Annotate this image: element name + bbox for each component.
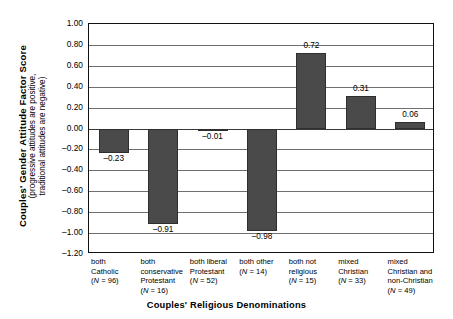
- y-axis-title-sub-line1: (progressive attitudes are positive,: [28, 45, 38, 227]
- x-category-line: non-Christian: [388, 276, 445, 286]
- x-category-line: Christian and: [388, 267, 445, 277]
- bar: [198, 129, 228, 131]
- y-tick-label: 1.00: [67, 19, 83, 27]
- x-axis-title: Couples' Religious Denominations: [0, 300, 453, 310]
- y-tick-label: 0.80: [67, 40, 83, 48]
- y-tick-label: –0.40: [62, 165, 83, 173]
- bar: [247, 129, 277, 231]
- bar-series: –0.23–0.91–0.01–0.980.720.310.06: [89, 24, 433, 252]
- y-tick-label: –0.20: [62, 144, 83, 152]
- x-category-line: mixed: [388, 257, 445, 267]
- y-tick-label: 0.00: [67, 123, 83, 131]
- bar: [395, 122, 425, 128]
- x-category-label: mixedChristian andnon-Christian(N = 49): [388, 257, 445, 296]
- bar: [346, 96, 376, 128]
- y-axis-title: Couples' Gender Attitude Factor Score (p…: [4, 18, 60, 254]
- y-tick-label: 0.60: [67, 61, 83, 69]
- bar-value-label: –0.23: [92, 155, 136, 163]
- bar-value-label: –0.91: [141, 226, 185, 234]
- bar: [148, 129, 178, 224]
- y-axis-title-sub-line2: traditional attitudes are negative): [38, 45, 48, 227]
- bar-value-label: 0.31: [339, 85, 383, 93]
- y-axis-title-main: Couples' Gender Attitude Factor Score: [17, 45, 28, 227]
- y-axis-tick-labels: 1.000.800.600.400.200.00–0.20–0.40–0.60–…: [56, 23, 86, 253]
- bar: [296, 53, 326, 128]
- bar: [99, 129, 129, 153]
- y-tick-label: –1.00: [62, 228, 83, 236]
- x-category-sample-size: (N = 52): [190, 276, 247, 286]
- x-category-sample-size: (N = 49): [388, 286, 445, 296]
- bar-value-label: 0.72: [289, 42, 333, 50]
- plot-area: –0.23–0.91–0.01–0.980.720.310.06: [88, 23, 434, 253]
- y-tick-label: –0.80: [62, 207, 83, 215]
- bar-value-label: –0.01: [191, 133, 235, 141]
- y-tick-label: –1.20: [62, 249, 83, 257]
- y-tick-label: –0.60: [62, 186, 83, 194]
- bar-value-label: –0.98: [240, 233, 284, 241]
- bar-chart-figure: Couples' Gender Attitude Factor Score (p…: [0, 0, 453, 319]
- y-tick-label: 0.40: [67, 82, 83, 90]
- y-tick-label: 0.20: [67, 102, 83, 110]
- bar-value-label: 0.06: [388, 111, 432, 119]
- x-category-sample-size: (N = 16): [140, 286, 197, 296]
